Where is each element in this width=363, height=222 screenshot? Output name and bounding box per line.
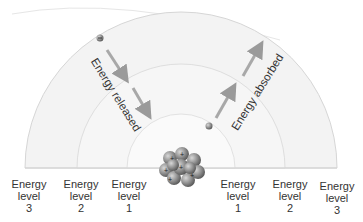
- label-number: 1: [216, 202, 260, 214]
- svg-text:+: +: [170, 155, 174, 162]
- label-word: Energy: [216, 178, 260, 190]
- label-word: Energy: [268, 178, 312, 190]
- label-word: Energy: [315, 180, 359, 192]
- label-number: 2: [268, 202, 312, 214]
- label-word: Energy: [7, 178, 51, 190]
- label-number: 3: [315, 204, 359, 216]
- label-left-level-1: Energy level 1: [107, 178, 151, 214]
- svg-text:+: +: [179, 164, 183, 171]
- label-number: 2: [59, 202, 103, 214]
- svg-text:+: +: [180, 151, 184, 158]
- svg-text:+: +: [190, 172, 194, 179]
- electron-inner: [206, 123, 213, 130]
- label-right-level-1: Energy level 1: [216, 178, 260, 214]
- svg-text:+: +: [164, 167, 168, 174]
- label-right-level-2: Energy level 2: [268, 178, 312, 214]
- svg-text:+: +: [168, 176, 172, 183]
- label-word: level: [268, 190, 312, 202]
- label-word: Energy: [107, 178, 151, 190]
- label-word: level: [315, 192, 359, 204]
- label-number: 3: [7, 202, 51, 214]
- label-word: level: [7, 190, 51, 202]
- label-right-level-3: Energy level 3: [315, 180, 359, 216]
- label-left-level-2: Energy level 2: [59, 178, 103, 214]
- label-word: level: [216, 190, 260, 202]
- label-word: level: [107, 190, 151, 202]
- label-number: 1: [107, 202, 151, 214]
- label-left-level-3: Energy level 3: [7, 178, 51, 214]
- label-word: level: [59, 190, 103, 202]
- label-word: Energy: [59, 178, 103, 190]
